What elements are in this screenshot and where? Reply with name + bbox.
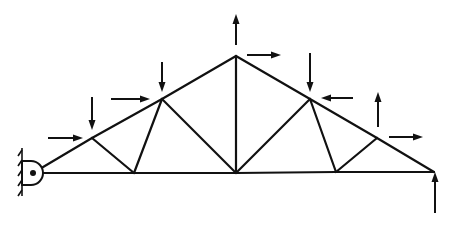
- load-arrow-u1-right-icon: [48, 135, 83, 142]
- truss-member-U2-U3: [162, 56, 236, 99]
- truss-member-U1-L1: [92, 138, 134, 173]
- load-arrow-u3-right-icon: [247, 52, 281, 59]
- load-arrow-u2-down-icon: [159, 62, 166, 92]
- load-arrow-u3-up-icon: [233, 14, 240, 45]
- load-arrow-u4-left-icon: [321, 95, 353, 102]
- load-arrow-u2-right-icon: [111, 96, 150, 103]
- load-arrow-u5-right-icon: [389, 134, 423, 141]
- load-arrow-u1-down-icon: [89, 97, 96, 130]
- truss-member-L1-U2: [134, 99, 162, 173]
- truss-member-U4-L5: [310, 99, 336, 172]
- load-arrow-u4-down-icon: [307, 53, 314, 92]
- load-arrow-u5-up-icon: [375, 92, 382, 127]
- pin-support: [18, 148, 43, 196]
- truss-members: [33, 56, 434, 173]
- truss-member-U3-U4: [236, 56, 310, 99]
- pin-joint: [30, 170, 36, 176]
- truss-member-L5-U5: [336, 138, 377, 172]
- truss-member-L3-L5: [236, 172, 336, 173]
- truss-member-U5-L6: [377, 138, 434, 172]
- truss-member-L3-U4: [236, 99, 310, 173]
- load-arrows: [48, 14, 439, 213]
- truss-member-U2-L3: [162, 99, 236, 173]
- truss-member-U4-U5: [310, 99, 377, 138]
- load-arrow-l6-up-icon: [432, 172, 439, 213]
- truss-member-U1-U2: [92, 99, 162, 138]
- truss-diagram: [0, 0, 454, 227]
